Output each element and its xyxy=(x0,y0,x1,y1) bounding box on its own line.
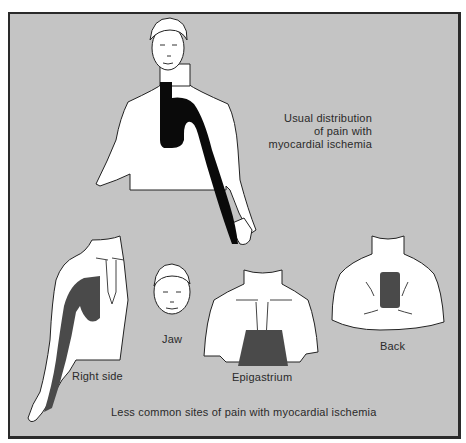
caption-line: myocardial ischemia xyxy=(262,138,372,151)
label-epigastrium: Epigastrium xyxy=(232,371,292,384)
usual-distribution-caption: Usual distribution of pain with myocardi… xyxy=(262,112,372,151)
label-back: Back xyxy=(380,340,405,353)
label-right-side: Right side xyxy=(72,370,123,383)
caption-line: of pain with xyxy=(262,125,372,138)
right-side-figure xyxy=(28,236,128,422)
epigastrium-pain-region xyxy=(238,330,288,366)
jaw-figure xyxy=(154,264,190,314)
caption-line: Usual distribution xyxy=(262,112,372,125)
label-jaw: Jaw xyxy=(162,333,182,346)
back-pain-region xyxy=(380,272,400,308)
bottom-caption: Less common sites of pain with myocardia… xyxy=(111,406,377,419)
